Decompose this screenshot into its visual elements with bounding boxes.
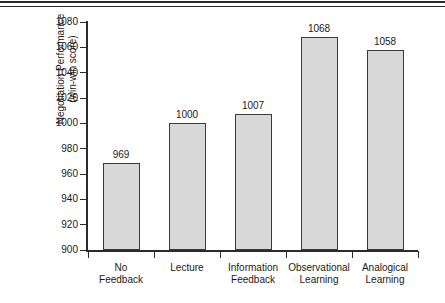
- x-category-label-line: Observational: [286, 262, 352, 274]
- y-axis-tick-label: 1060: [38, 42, 78, 52]
- x-axis-tick: [418, 251, 419, 258]
- x-axis-tick: [154, 251, 155, 258]
- x-category-label-line: Information: [220, 262, 286, 274]
- y-axis-tick-label: 1000: [38, 118, 78, 128]
- x-axis-tick: [286, 251, 287, 258]
- x-category-label: InformationFeedback: [220, 262, 286, 286]
- y-axis-tick-label: 1080: [38, 17, 78, 27]
- x-axis-line: [86, 250, 418, 252]
- x-axis-tick: [220, 251, 221, 258]
- y-axis-tick-label: 1040: [38, 68, 78, 78]
- x-category-label: ObservationalLearning: [286, 262, 352, 286]
- bar-value-label: 1058: [360, 37, 410, 47]
- y-axis-tick: [80, 199, 86, 200]
- x-category-label: AnalogicalLearning: [352, 262, 418, 286]
- x-category-label-line: No: [88, 262, 154, 274]
- x-category-label-line: Learning: [352, 274, 418, 286]
- x-axis-tick: [352, 251, 353, 258]
- y-axis-tick: [80, 148, 86, 149]
- y-axis-tick-label: 1020: [38, 93, 78, 103]
- y-axis-tick: [80, 174, 86, 175]
- x-category-label: Lecture: [154, 262, 220, 274]
- x-category-label: NoFeedback: [88, 262, 154, 286]
- y-axis-tick-label: 920: [38, 220, 78, 230]
- y-axis-tick: [80, 72, 86, 73]
- y-axis-tick: [80, 47, 86, 48]
- bar-value-label: 1000: [162, 110, 212, 120]
- x-category-label-line: Lecture: [154, 262, 220, 274]
- y-axis-tick: [80, 22, 86, 23]
- y-axis-tick: [80, 250, 86, 251]
- bar-value-label: 969: [96, 150, 146, 160]
- x-axis-tick: [88, 251, 89, 258]
- y-axis-tick: [80, 224, 86, 225]
- bar[interactable]: [169, 123, 206, 250]
- bar-value-label: 1007: [228, 101, 278, 111]
- y-axis-tick-label: 940: [38, 194, 78, 204]
- y-axis-tick: [80, 98, 86, 99]
- bar[interactable]: [367, 50, 404, 250]
- x-category-label-line: Feedback: [220, 274, 286, 286]
- x-category-label-line: Analogical: [352, 262, 418, 274]
- y-axis-line: [86, 21, 88, 252]
- x-category-label-line: Feedback: [88, 274, 154, 286]
- y-axis-tick: [80, 123, 86, 124]
- y-axis-tick-label: 980: [38, 144, 78, 154]
- bar[interactable]: [103, 163, 140, 250]
- bar[interactable]: [235, 114, 272, 250]
- bar[interactable]: [301, 37, 338, 250]
- bar-value-label: 1068: [294, 24, 344, 34]
- y-axis-tick-label: 900: [38, 245, 78, 255]
- bar-chart-figure: Negotiation Performance (win-win score) …: [0, 0, 445, 303]
- x-category-label-line: Learning: [286, 274, 352, 286]
- y-axis-tick-label: 960: [38, 169, 78, 179]
